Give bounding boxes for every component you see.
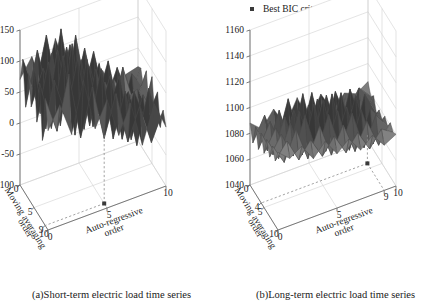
best-bic-point-marker [102,202,106,206]
z-tick-label: -50 [1,149,14,159]
z-tick-label: 1120 [225,77,244,87]
z-tick-label: 100 [0,56,14,66]
panel-short-term: 150100500-50-100059100510BIC criterionMo… [0,0,223,308]
z-tick-label: 1060 [225,154,244,164]
z-tick-label: 0 [9,118,14,128]
z-tick-label: 1160 [225,25,244,35]
x-tick-label: 10 [393,188,403,198]
x-tick-label: 9 [384,192,389,202]
caption-panel-b: (b)Long-term electric load time series [256,289,415,300]
x-tick-label: 0 [48,232,53,242]
caption-panel-a: (a)Short-term electric load time series [32,289,191,300]
z-tick-label: 1100 [225,103,244,113]
best-bic-point-marker [365,161,369,165]
surface-plot-b: 11601140112011001080106010400451005910BI… [224,0,447,308]
z-tick-label: 1080 [225,129,244,139]
surface-plot-a: 150100500-50-100059100510BIC criterionMo… [0,0,223,308]
z-tick-label: 1140 [225,51,244,61]
z-tick-label: 150 [0,25,14,35]
x-tick-label: 10 [163,188,173,198]
panel-long-term: 11601140112011001080106010400451005910BI… [224,0,447,308]
z-tick-label: 50 [5,87,15,97]
figure-container: Best BIC criterion 150100500-50-10005910… [0,0,447,308]
x-tick-label: 0 [278,232,283,242]
